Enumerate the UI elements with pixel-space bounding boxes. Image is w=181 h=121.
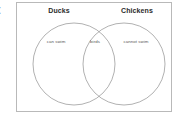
venn-circles [17,3,173,113]
cropped-edge-text-fragment: t [0,2,4,18]
set-circle-chickens [83,23,165,105]
set-circle-ducks [33,23,115,105]
venn-diagram-frame: Ducks Chickens can swim birds cannot swi… [16,2,172,112]
region-label-chickens-only: cannot swim [105,39,167,44]
